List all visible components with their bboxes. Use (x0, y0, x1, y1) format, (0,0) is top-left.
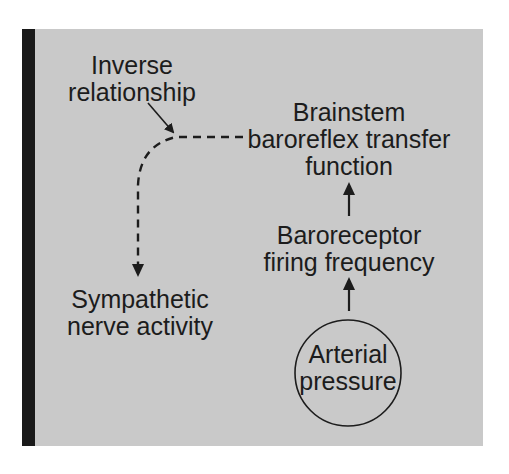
arterial-pressure-line1: Arterial (288, 341, 408, 368)
brainstem-line3: function (239, 153, 459, 180)
sympathetic-node: Sympathetic nerve activity (60, 286, 220, 340)
sympathetic-line2: nerve activity (60, 313, 220, 340)
sympathetic-line1: Sympathetic (60, 286, 220, 313)
side-bar (22, 29, 35, 446)
inverse-relationship-line1: Inverse (62, 52, 202, 79)
baroreceptor-node: Baroreceptor firing frequency (249, 222, 449, 276)
arterial-pressure-line2: pressure (288, 368, 408, 395)
brainstem-node: Brainstem baroreflex transfer function (239, 99, 459, 180)
brainstem-line1: Brainstem (239, 99, 459, 126)
arterial-pressure-node: Arterial pressure (288, 341, 408, 395)
inverse-relationship-label: Inverse relationship (62, 52, 202, 106)
baroreceptor-line1: Baroreceptor (249, 222, 449, 249)
brainstem-line2: baroreflex transfer (239, 126, 459, 153)
baroreceptor-line2: firing frequency (249, 249, 449, 276)
inverse-relationship-line2: relationship (62, 79, 202, 106)
